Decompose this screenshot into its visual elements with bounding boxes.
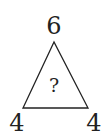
- bottom-right-number: 4: [82, 111, 106, 135]
- top-number: 6: [42, 14, 66, 38]
- bottom-left-number: 4: [5, 111, 29, 135]
- center-question-mark: ?: [44, 76, 64, 95]
